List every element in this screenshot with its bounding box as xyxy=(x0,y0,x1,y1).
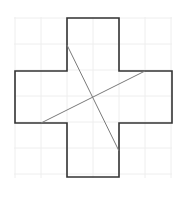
diagram-canvas xyxy=(0,0,183,197)
cross-diagram xyxy=(0,0,183,197)
